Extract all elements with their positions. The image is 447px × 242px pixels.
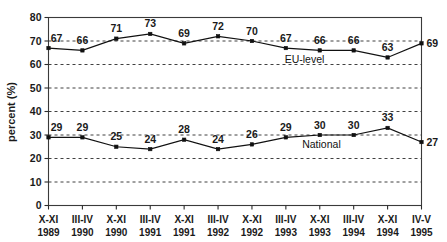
data-label-0-2: 71	[110, 22, 122, 34]
data-label-0-3: 73	[144, 17, 156, 29]
data-label-1-1: 29	[77, 121, 89, 133]
x-tick-label-year-4: 1991	[173, 227, 196, 238]
data-point-0-6	[250, 39, 253, 42]
data-point-1-2	[115, 145, 118, 148]
data-label-1-7: 29	[280, 121, 292, 133]
data-point-0-3	[149, 32, 152, 35]
data-label-1-8: 30	[314, 119, 326, 131]
data-label-1-5: 24	[212, 133, 224, 145]
x-tick-label-year-2: 1990	[105, 227, 128, 238]
data-point-0-2	[115, 37, 118, 40]
data-point-0-0	[47, 46, 50, 49]
x-tick-label-year-0: 1989	[37, 227, 60, 238]
gridlines-group	[49, 41, 422, 182]
x-tick-label-period-9: III-IV	[343, 214, 364, 225]
x-tick-label-year-10: 1994	[376, 227, 399, 238]
data-label-1-10: 33	[382, 111, 394, 123]
x-tick-label-year-5: 1992	[207, 227, 230, 238]
x-tick-label-year-1: 1990	[71, 227, 94, 238]
y-tick-label-80: 80	[30, 11, 42, 23]
x-tick-label-period-1: III-IV	[72, 214, 93, 225]
x-tick-label-period-10: X-XI	[378, 214, 398, 225]
y-tick-label-20: 20	[30, 152, 42, 164]
series-markers-group	[47, 32, 423, 151]
x-tick-label-period-2: X-XI	[107, 214, 127, 225]
data-point-0-10	[386, 56, 389, 59]
x-tick-label-period-6: X-XI	[242, 214, 262, 225]
y-axis-tick-labels: 01020304050607080	[30, 11, 42, 211]
x-tick-label-period-7: III-IV	[275, 214, 296, 225]
data-point-1-5	[216, 147, 219, 150]
data-point-0-7	[284, 46, 287, 49]
series-name-national: National	[302, 138, 341, 150]
data-point-1-0	[47, 136, 50, 139]
line-chart: 01020304050607080 X-XI1989III-IV1990X-XI…	[0, 0, 447, 242]
data-point-1-3	[149, 147, 152, 150]
series-name-eu-level: EU-level	[285, 53, 325, 65]
x-tick-label-period-5: III-IV	[207, 214, 228, 225]
data-point-1-4	[182, 138, 185, 141]
series-line-eu-level	[49, 34, 422, 58]
x-tick-label-period-3: III-IV	[140, 214, 161, 225]
data-label-0-4: 69	[178, 27, 190, 39]
data-label-0-1: 66	[77, 34, 89, 46]
data-label-0-9: 66	[348, 34, 360, 46]
data-label-1-0: 29	[51, 121, 63, 133]
y-tick-label-0: 0	[36, 199, 42, 211]
series-line-national	[49, 128, 422, 149]
x-tick-label-year-9: 1994	[343, 227, 366, 238]
y-tick-label-30: 30	[30, 129, 42, 141]
data-point-1-11	[420, 140, 423, 143]
data-point-0-5	[216, 35, 219, 38]
data-label-1-3: 24	[144, 133, 156, 145]
data-label-1-4: 28	[178, 123, 190, 135]
data-label-1-2: 25	[110, 130, 122, 142]
data-label-1-11: 27	[427, 136, 439, 148]
x-tick-label-year-3: 1991	[139, 227, 162, 238]
y-axis-ticks	[45, 18, 49, 206]
data-point-0-1	[81, 49, 84, 52]
x-tick-label-year-7: 1993	[275, 227, 298, 238]
y-tick-label-40: 40	[30, 105, 42, 117]
y-axis-title: percent (%)	[5, 82, 17, 142]
x-tick-label-period-4: X-XI	[174, 214, 194, 225]
data-label-0-7: 67	[280, 32, 292, 44]
data-point-1-6	[250, 143, 253, 146]
data-label-0-0: 67	[51, 32, 63, 44]
data-label-0-6: 70	[246, 25, 258, 37]
data-point-1-8	[318, 133, 321, 136]
y-tick-label-50: 50	[30, 82, 42, 94]
x-tick-label-year-11: 1995	[410, 227, 433, 238]
data-label-0-10: 63	[382, 41, 394, 53]
chart-container: 01020304050607080 X-XI1989III-IV1990X-XI…	[0, 0, 447, 242]
data-point-1-9	[352, 133, 355, 136]
x-tick-label-year-8: 1993	[309, 227, 332, 238]
y-axis-title-group: percent (%)	[5, 82, 17, 142]
data-point-labels-group: 6766717369727067666663692929252428242629…	[51, 17, 439, 148]
x-axis-ticks	[49, 206, 422, 210]
x-axis-tick-labels: X-XI1989III-IV1990X-XI1990III-IV1991X-XI…	[37, 214, 433, 238]
y-tick-label-60: 60	[30, 58, 42, 70]
x-tick-label-year-6: 1992	[241, 227, 264, 238]
data-point-1-1	[81, 136, 84, 139]
data-point-0-11	[420, 42, 423, 45]
y-tick-label-10: 10	[30, 176, 42, 188]
y-tick-label-70: 70	[30, 35, 42, 47]
data-label-0-11: 69	[427, 37, 439, 49]
data-point-0-4	[182, 42, 185, 45]
data-point-0-8	[318, 49, 321, 52]
x-tick-label-period-11: IV-V	[412, 214, 431, 225]
data-label-0-5: 72	[212, 20, 224, 32]
data-label-1-9: 30	[348, 119, 360, 131]
data-point-1-7	[284, 136, 287, 139]
data-point-0-9	[352, 49, 355, 52]
data-label-1-6: 26	[246, 128, 258, 140]
x-tick-label-period-8: X-XI	[310, 214, 330, 225]
series-lines-group	[49, 34, 422, 149]
x-tick-label-period-0: X-XI	[39, 214, 59, 225]
data-label-0-8: 66	[314, 34, 326, 46]
data-point-1-10	[386, 126, 389, 129]
